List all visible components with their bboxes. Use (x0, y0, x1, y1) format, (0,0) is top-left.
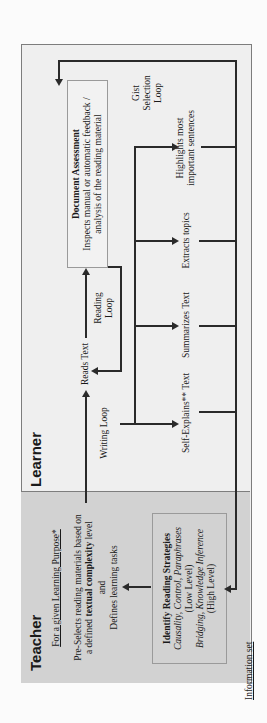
branch-line-ext (134, 146, 136, 425)
gist-label-3: Loop (153, 68, 164, 118)
preselect-line-2: a defined textual complexity level (84, 500, 95, 675)
stub (199, 240, 236, 242)
learning-purpose: For a given Learning Purpose* (51, 513, 62, 663)
reading-loop-label-2: Loop (104, 283, 115, 333)
reading-loop-return (96, 370, 121, 372)
arrow-down-icon (172, 237, 179, 245)
strategies-high-items: Bridging, Knowledge Inference (195, 529, 206, 648)
branch-self-explains (134, 423, 174, 425)
caption-information-set: Information set (244, 642, 254, 700)
level-text: level (84, 521, 94, 542)
branch-highlights (134, 146, 174, 148)
reads-to-assessment-line (85, 273, 87, 338)
writing-loop-label: Writing Loop (99, 398, 110, 468)
reading-process-diagram: Teacher For a given Learning Purpose* Pr… (21, 44, 252, 683)
gist-label-1: Gist (131, 68, 142, 118)
gist-label-2: Selection (142, 68, 153, 118)
arrow-right-icon (82, 268, 90, 275)
stub (199, 411, 236, 413)
output-self-explains: Self-Explains** Text (181, 363, 192, 463)
gist-loop-line (235, 60, 237, 590)
gist-loop-top (58, 60, 60, 80)
stub (201, 146, 236, 148)
branch-summarizes (134, 325, 174, 327)
doc-assessment-line1: Inspects manual or automatic feedback / (82, 97, 93, 250)
strategies-box: Identify Reading Strategies Causality, C… (152, 513, 227, 664)
strategies-title: Identify Reading Strategies (162, 533, 173, 644)
teacher-title: Teacher (27, 615, 44, 671)
gist-loop-right (58, 60, 237, 62)
preselect-line-1: Pre-Selects reading materials based on (73, 500, 84, 675)
strategies-low-label: (Low Level) (184, 565, 195, 613)
strategies-high-label: (High Level) (206, 564, 217, 613)
textual-complexity: textual complexity (84, 542, 94, 617)
output-highlights-1: Highlights most (175, 98, 186, 198)
arrow-up-icon (224, 585, 231, 593)
arrow-up-icon (91, 367, 98, 375)
teacher-to-learner-line (85, 491, 87, 503)
defines-tasks: Defines learning tasks (109, 500, 120, 675)
arrow-down-icon (172, 420, 179, 428)
arrow-right-icon (82, 390, 90, 397)
stub (199, 325, 236, 327)
output-summarizes: Summarizes Text (181, 280, 192, 370)
strategies-to-tasks-line (129, 586, 151, 588)
output-extracts: Extracts topics (181, 203, 192, 278)
output-highlights-2: important sentences (186, 98, 197, 198)
arrow-left-icon (55, 79, 63, 86)
strategies-low-items: Causality, Control, Paraphrases (173, 527, 184, 650)
preselect-text: a defined (84, 617, 94, 654)
reads-text: Reads Text (80, 340, 91, 388)
writing-loop-line (85, 392, 87, 492)
doc-assessment-title: Document Assessment (71, 129, 82, 219)
reading-loop-label-1: Reading (93, 283, 104, 333)
doc-assessment-line2: analysis of the reading material (93, 114, 104, 233)
reading-loop-line (120, 266, 122, 372)
and-text: and (97, 500, 108, 675)
document-assessment-box: Document Assessment Inspects manual or a… (67, 80, 108, 268)
branch-extracts (134, 240, 174, 242)
arrow-down-icon (172, 322, 179, 330)
learner-title: Learner (27, 432, 44, 487)
arrow-up-icon (122, 583, 129, 591)
